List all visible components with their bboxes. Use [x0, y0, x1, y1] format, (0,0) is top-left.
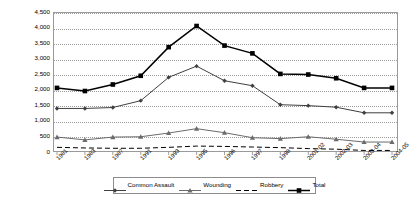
x-tick-label: 1981 — [55, 148, 69, 162]
legend-swatch-icon — [288, 181, 310, 190]
x-tick-label: 1997 — [250, 148, 264, 162]
line-chart: 05001,0001,5002,0002,5003,0003,5004,0004… — [0, 0, 416, 209]
chart-legend: Common AssaultWoundingRobberyTotal — [113, 177, 316, 194]
legend-item: Total — [288, 181, 325, 190]
x-tick-label: 1993 — [167, 148, 181, 162]
legend-label: Robbery — [260, 182, 283, 188]
legend-item: Robbery — [236, 181, 283, 190]
x-tick-label: 1987 — [111, 148, 125, 162]
legend-label: Common Assault — [128, 182, 175, 188]
x-tick-label: 1995 — [195, 148, 209, 162]
legend-label: Total — [312, 182, 325, 188]
x-tick-label: 2002-03 — [334, 141, 354, 161]
legend-swatch-icon — [104, 181, 126, 190]
x-tick-label: 2001-02 — [306, 141, 326, 161]
legend-swatch-icon — [236, 181, 258, 190]
legend-label: Wounding — [203, 182, 231, 188]
x-tick-label: 1998 — [278, 148, 292, 162]
x-tick-label: 2004-05 — [390, 141, 410, 161]
x-tick-label: 1996 — [223, 148, 237, 162]
legend-item: Common Assault — [104, 181, 175, 190]
legend-item: Wounding — [179, 181, 231, 190]
x-tick-label: 1991 — [139, 148, 153, 162]
x-tick-label: 1983 — [83, 148, 97, 162]
x-tick-label: 2003-04 — [362, 141, 382, 161]
legend-swatch-icon — [179, 181, 201, 190]
